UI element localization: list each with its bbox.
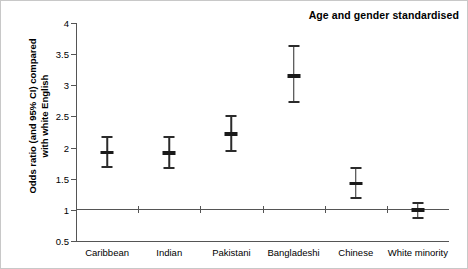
- x-tick-label: Chinese: [338, 247, 373, 258]
- y-tick-mark: [71, 148, 77, 149]
- y-tick-mark: [71, 23, 77, 24]
- x-tick-mark: [138, 206, 139, 213]
- y-tick-label: 2: [1, 143, 69, 154]
- error-bar-cap-lower: [164, 167, 175, 169]
- error-bar-cap-upper: [226, 115, 237, 117]
- error-bar-cap-upper: [164, 136, 175, 138]
- y-tick-label: 1: [1, 205, 69, 216]
- data-point-marker: [411, 208, 424, 212]
- x-tick-mark: [263, 206, 264, 213]
- y-tick-label: 0.5: [1, 236, 69, 247]
- error-bar-cap-upper: [350, 167, 361, 169]
- y-tick-label: 3.5: [1, 49, 69, 60]
- y-tick-mark: [71, 241, 77, 242]
- y-tick-label: 2.5: [1, 111, 69, 122]
- chart-title: Age and gender standardised: [309, 9, 459, 21]
- error-bar-cap-lower: [226, 150, 237, 152]
- y-tick-label: 3: [1, 80, 69, 91]
- error-bar-cap-upper: [412, 202, 423, 204]
- x-tick-mark: [325, 206, 326, 213]
- y-tick-label: 4: [1, 18, 69, 29]
- data-point-marker: [101, 151, 114, 155]
- data-point-marker: [163, 151, 176, 155]
- y-tick-label: 1.5: [1, 174, 69, 185]
- y-tick-mark: [71, 85, 77, 86]
- x-tick-label: White minority: [388, 247, 448, 258]
- error-bar-cap-lower: [350, 197, 361, 199]
- data-point-marker: [287, 74, 300, 78]
- x-tick-label: Indian: [156, 247, 182, 258]
- data-point-marker: [349, 182, 362, 186]
- error-bar-cap-lower: [102, 166, 113, 168]
- x-tick-label: Pakistani: [212, 247, 251, 258]
- error-bar-cap-upper: [288, 45, 299, 47]
- x-tick-label: Bangladeshi: [267, 247, 319, 258]
- x-tick-mark: [200, 206, 201, 213]
- y-tick-mark: [71, 210, 77, 211]
- x-axis-line: [76, 241, 449, 242]
- y-tick-mark: [71, 116, 77, 117]
- error-bar-cap-lower: [412, 217, 423, 219]
- x-tick-label: Caribbean: [85, 247, 129, 258]
- error-bar-cap-lower: [288, 101, 299, 103]
- y-tick-mark: [71, 179, 77, 180]
- chart-figure: Age and gender standardised Odds ratio (…: [0, 0, 468, 269]
- x-tick-mark: [387, 206, 388, 213]
- error-bar-cap-upper: [102, 136, 113, 138]
- y-tick-mark: [71, 54, 77, 55]
- data-point-marker: [225, 132, 238, 136]
